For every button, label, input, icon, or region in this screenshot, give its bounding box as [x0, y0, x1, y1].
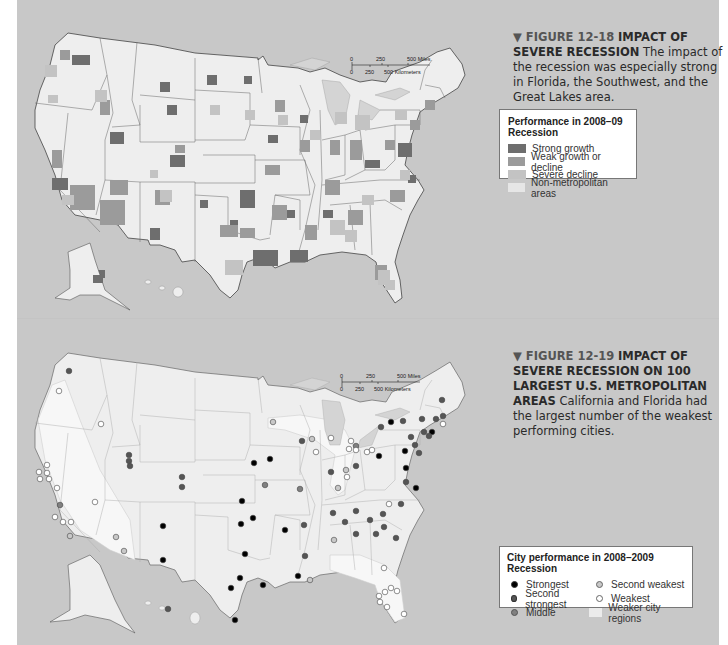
scale-mi-500: 500 Miles [397, 373, 421, 379]
dot-weakest-icon [596, 595, 603, 602]
swatch-weaker-city-regions [589, 608, 602, 617]
dot-middle-icon [511, 609, 518, 616]
legend-label: Middle [526, 607, 555, 618]
scale-mi-0: 0 [340, 373, 343, 379]
legend-item-middle: Middle [507, 606, 592, 619]
scale-km-250: 250 [355, 386, 364, 392]
legend-item-second-strongest: Second strongest [507, 592, 592, 605]
legend-item-weaker-city-regions: Weaker city regions [592, 606, 692, 619]
caption-figure-12-19: ▼ FIGURE 12-19 IMPACT OF SEVERE RECESSIO… [513, 349, 728, 439]
alaska [50, 555, 135, 633]
dot-second-weakest-icon [596, 581, 603, 588]
scale-km-0: 0 [340, 386, 343, 392]
legend-figure-12-19: City performance in 2008–2009 Recession … [499, 546, 693, 608]
legend-title: City performance in 2008–2009 Recession [507, 552, 686, 574]
dot-strongest-icon [511, 581, 518, 588]
scale-mi-250: 250 [366, 373, 375, 379]
scale-km-500: 500 Kilometers [374, 386, 411, 392]
dot-second-strongest-icon [511, 595, 517, 602]
hawaii [145, 601, 200, 624]
legend-item-second-weakest: Second weakest [592, 578, 692, 591]
figure-label: ▼ FIGURE 12-19 [513, 349, 614, 363]
legend-label: Second weakest [611, 579, 684, 590]
legend-label: Weaker city regions [608, 602, 692, 624]
